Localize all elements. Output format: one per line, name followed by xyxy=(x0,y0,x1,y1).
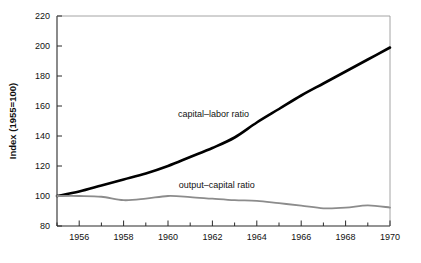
x-tick-label: 1966 xyxy=(291,232,311,242)
y-tick-label: 140 xyxy=(35,131,50,141)
x-tick-label: 1970 xyxy=(380,232,400,242)
line-chart: 80100120140160180200220 1956195819601962… xyxy=(0,0,421,263)
y-tick-label: 80 xyxy=(40,221,50,231)
x-tick-label: 1968 xyxy=(336,232,356,242)
series-annotation: output–capital ratio xyxy=(179,180,255,190)
x-tick-label: 1964 xyxy=(247,232,267,242)
series-annotation: capital–labor ratio xyxy=(178,109,249,119)
series-line-capital-labor ratio xyxy=(57,48,390,197)
plot-frame xyxy=(57,16,390,226)
y-axis-title: Index (1955=100) xyxy=(7,83,18,159)
x-tick-label: 1958 xyxy=(114,232,134,242)
series-annotations-group: capital–labor ratiooutput–capital ratio xyxy=(178,109,255,190)
x-axis-ticks xyxy=(57,221,390,227)
x-tick-label: 1962 xyxy=(202,232,222,242)
x-tick-label: 1956 xyxy=(69,232,89,242)
y-tick-label: 220 xyxy=(35,11,50,21)
x-axis-tick-labels: 19561958196019621964196619681970 xyxy=(69,232,400,242)
y-tick-label: 200 xyxy=(35,41,50,51)
series-line-output-capital ratio xyxy=(57,196,390,208)
y-tick-label: 120 xyxy=(35,161,50,171)
chart-container: 80100120140160180200220 1956195819601962… xyxy=(0,0,421,263)
y-axis-tick-labels: 80100120140160180200220 xyxy=(35,11,50,231)
y-tick-label: 180 xyxy=(35,71,50,81)
x-tick-label: 1960 xyxy=(158,232,178,242)
y-tick-label: 100 xyxy=(35,191,50,201)
y-tick-label: 160 xyxy=(35,101,50,111)
